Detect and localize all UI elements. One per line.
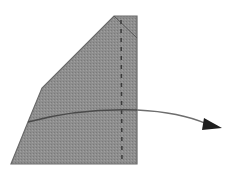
arrow-head-icon xyxy=(202,118,222,130)
folded-paper-shape xyxy=(11,16,137,164)
fold-diagram xyxy=(0,0,247,177)
arrow-shaft xyxy=(137,110,207,124)
